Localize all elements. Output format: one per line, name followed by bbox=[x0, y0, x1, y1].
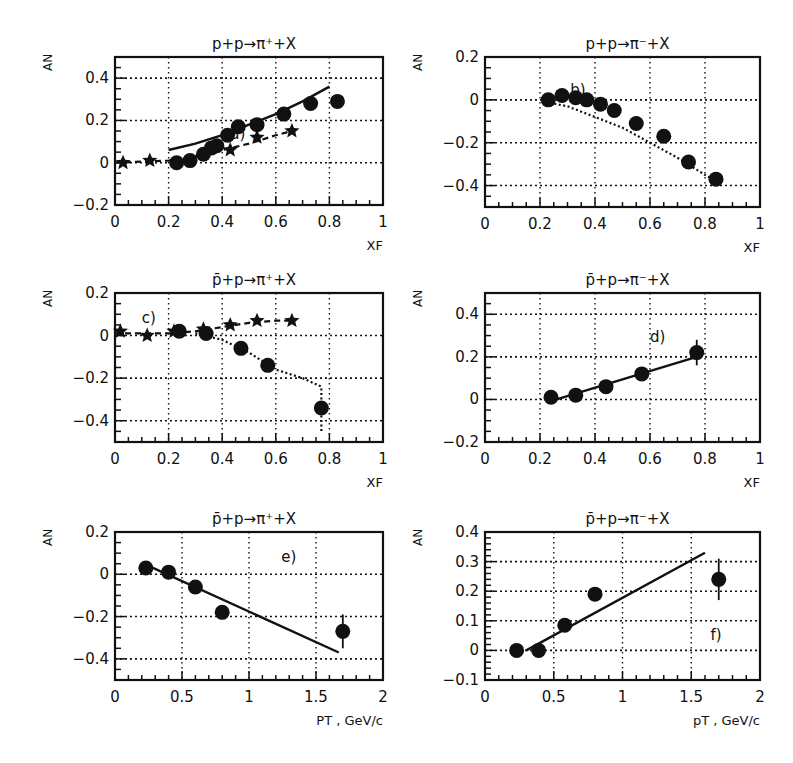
x-tick-label: 2 bbox=[755, 688, 765, 706]
chart-panel-e: 00.511.52−0.4−0.200.2p̄+p→π⁺+XANPT , GeV… bbox=[41, 510, 388, 728]
y-tick-label: 0.2 bbox=[85, 111, 109, 129]
data-point-circle bbox=[541, 92, 556, 107]
x-axis-label: pT , GeV/c bbox=[693, 713, 760, 728]
y-tick-label: 0.2 bbox=[455, 48, 479, 66]
data-point-circle bbox=[303, 96, 318, 111]
y-tick-label: 0.1 bbox=[455, 612, 479, 630]
panel-label: f) bbox=[711, 626, 722, 644]
data-point-star bbox=[140, 328, 155, 342]
grid-lines bbox=[485, 532, 760, 680]
y-axis-label: AN bbox=[411, 529, 425, 546]
data-point-star bbox=[223, 142, 238, 157]
fit-curve bbox=[149, 566, 339, 653]
x-tick-label: 1 bbox=[378, 213, 388, 231]
data-point-circle bbox=[188, 579, 203, 594]
x-tick-label: 1.5 bbox=[304, 688, 328, 706]
data-point-circle bbox=[509, 643, 524, 658]
x-tick-label: 0.4 bbox=[210, 213, 234, 231]
x-tick-label: 0 bbox=[110, 688, 120, 706]
x-tick-label: 0.6 bbox=[638, 215, 662, 233]
y-tick-label: −0.2 bbox=[73, 369, 109, 387]
y-tick-label: 0 bbox=[99, 327, 109, 345]
chart-panel-d: 00.20.40.60.81−0.200.20.4p̄+p→π⁻+XANXFd) bbox=[411, 271, 765, 490]
data-point-circle bbox=[629, 116, 644, 131]
fit-curve bbox=[169, 87, 330, 150]
data-point-circle bbox=[709, 172, 724, 187]
x-axis-label: XF bbox=[367, 238, 383, 253]
panel-title: p̄+p→π⁺+X bbox=[212, 271, 296, 289]
data-point-circle bbox=[557, 618, 572, 633]
fit-curve bbox=[195, 333, 321, 431]
x-tick-label: 0 bbox=[110, 450, 120, 468]
data-point-circle bbox=[209, 138, 224, 153]
x-tick-label: 0 bbox=[110, 213, 120, 231]
y-tick-label: −0.2 bbox=[443, 433, 479, 451]
data-point-circle bbox=[634, 366, 649, 381]
chart-panel-f: 00.511.52−0.100.10.20.30.4p̄+p→π⁻+XANpT … bbox=[411, 510, 765, 728]
data-point-circle bbox=[335, 624, 350, 639]
x-tick-label: 0.6 bbox=[264, 213, 288, 231]
y-tick-label: −0.2 bbox=[73, 608, 109, 626]
x-tick-label: 1 bbox=[378, 450, 388, 468]
x-tick-label: 0 bbox=[480, 450, 490, 468]
x-tick-label: 1 bbox=[244, 688, 254, 706]
x-tick-label: 1.5 bbox=[679, 688, 703, 706]
panel-label: a) bbox=[230, 125, 245, 143]
panel-title: p̄+p→π⁻+X bbox=[586, 510, 670, 528]
data-point-circle bbox=[161, 565, 176, 580]
data-point-circle bbox=[138, 560, 153, 575]
x-tick-label: 0.8 bbox=[693, 450, 717, 468]
data-point-circle bbox=[681, 155, 696, 170]
y-tick-label: −0.2 bbox=[73, 196, 109, 214]
data-point-circle bbox=[555, 88, 570, 103]
x-tick-label: 0.5 bbox=[170, 688, 194, 706]
x-tick-label: 0.4 bbox=[583, 215, 607, 233]
chart-panel-b: 00.20.40.60.81−0.4−0.200.2p+p→π⁻+XANXFb) bbox=[411, 35, 765, 255]
chart-panel-c: 00.20.40.60.81−0.4−0.200.2p̄+p→π⁺+XANXFc… bbox=[41, 271, 388, 490]
y-tick-label: −0.4 bbox=[73, 412, 109, 430]
panel-title: p+p→π⁺+X bbox=[212, 35, 296, 53]
data-point-circle bbox=[169, 155, 184, 170]
y-axis-label: AN bbox=[41, 529, 55, 546]
y-tick-label: 0 bbox=[469, 91, 479, 109]
x-tick-label: 0.6 bbox=[264, 450, 288, 468]
x-tick-label: 0.4 bbox=[583, 450, 607, 468]
data-point-circle bbox=[711, 572, 726, 587]
data-point-circle bbox=[588, 587, 603, 602]
y-tick-label: −0.1 bbox=[443, 671, 479, 689]
data-point-circle bbox=[233, 341, 248, 356]
panel-label: b) bbox=[570, 81, 585, 99]
x-tick-label: 0.6 bbox=[638, 450, 662, 468]
panel-label: c) bbox=[142, 309, 156, 327]
x-tick-label: 0.2 bbox=[157, 213, 181, 231]
grid-lines bbox=[115, 57, 383, 205]
x-tick-label: 0.5 bbox=[542, 688, 566, 706]
panel-title: p̄+p→π⁺+X bbox=[212, 510, 296, 528]
x-axis-label: XF bbox=[744, 475, 760, 490]
x-tick-label: 0 bbox=[480, 215, 490, 233]
data-point-circle bbox=[599, 379, 614, 394]
x-tick-label: 0 bbox=[480, 688, 490, 706]
y-tick-label: −0.4 bbox=[443, 177, 479, 195]
data-point-circle bbox=[656, 129, 671, 144]
y-tick-label: 0 bbox=[469, 390, 479, 408]
y-axis-label: AN bbox=[41, 290, 55, 307]
data-point-circle bbox=[593, 97, 608, 112]
x-axis-label: XF bbox=[744, 240, 760, 255]
data-point-circle bbox=[314, 400, 329, 415]
data-point-circle bbox=[531, 643, 546, 658]
y-tick-label: 0 bbox=[469, 641, 479, 659]
fit-curve bbox=[546, 102, 717, 181]
x-tick-label: 1 bbox=[618, 688, 628, 706]
x-axis-label: XF bbox=[367, 475, 383, 490]
x-tick-label: 0.8 bbox=[317, 450, 341, 468]
data-point-star bbox=[223, 317, 238, 332]
x-tick-label: 1 bbox=[755, 215, 765, 233]
x-tick-label: 2 bbox=[378, 688, 388, 706]
data-point-circle bbox=[276, 107, 291, 122]
y-axis-label: AN bbox=[411, 290, 425, 307]
y-tick-label: 0.4 bbox=[455, 523, 479, 541]
x-tick-label: 0.2 bbox=[157, 450, 181, 468]
data-point-circle bbox=[260, 358, 275, 373]
data-point-star bbox=[284, 123, 299, 138]
